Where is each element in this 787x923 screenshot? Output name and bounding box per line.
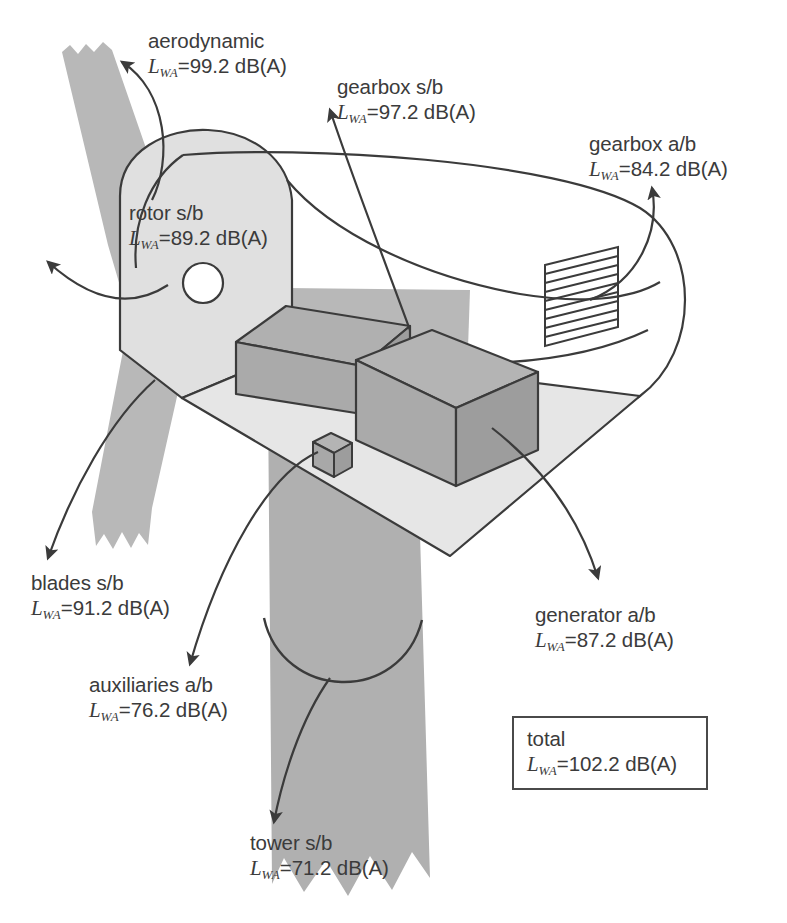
label-tower-sb-name: tower s/b [250,830,389,855]
grille-louver-2 [545,265,618,283]
symbol-L: L [527,752,539,776]
label-auxiliaries-ab-name: auxiliaries a/b [89,672,228,697]
label-aerodynamic: aerodynamic LWA=99.2 dB(A) [148,28,287,85]
rotor-hub-circle [183,263,223,303]
symbol-subscript-WA: WA [160,65,178,80]
label-tower-sb-number: =71.2 dB(A) [280,856,389,879]
label-tower-sb: tower s/b LWA=71.2 dB(A) [250,830,389,887]
grille-louver-3 [545,274,618,292]
label-blades-sb: blades s/b LWA=91.2 dB(A) [31,570,170,627]
symbol-L: L [89,698,101,722]
label-blades-sb-name: blades s/b [31,570,170,595]
grille-frame [545,247,618,346]
label-auxiliaries-ab: auxiliaries a/b LWA=76.2 dB(A) [89,672,228,729]
symbol-L: L [589,157,601,181]
grille-louver-7 [545,310,618,328]
label-total-number: =102.2 dB(A) [557,752,677,775]
label-generator-ab-number: =87.2 dB(A) [565,628,674,651]
label-gearbox-ab: gearbox a/b LWA=84.2 dB(A) [589,131,728,188]
label-rotor-sb-name: rotor s/b [129,200,268,225]
label-rotor-sb: rotor s/b LWA=89.2 dB(A) [129,200,268,257]
symbol-subscript-WA: WA [43,607,61,622]
label-gearbox-sb-number: =97.2 dB(A) [367,100,476,123]
label-tower-sb-value: LWA=71.2 dB(A) [250,855,389,887]
symbol-L: L [535,628,547,652]
symbol-subscript-WA: WA [101,709,119,724]
total-summary-box: total LWA=102.2 dB(A) [512,716,708,790]
label-blades-sb-value: LWA=91.2 dB(A) [31,595,170,627]
symbol-subscript-WA: WA [349,111,367,126]
label-gearbox-sb: gearbox s/b LWA=97.2 dB(A) [337,74,476,131]
symbol-L: L [129,226,141,250]
symbol-subscript-WA: WA [539,763,557,778]
grille-louver-8 [545,319,618,337]
label-gearbox-sb-value: LWA=97.2 dB(A) [337,99,476,131]
label-aerodynamic-number: =99.2 dB(A) [178,54,287,77]
grille-louver-6 [545,301,618,319]
label-generator-ab: generator a/b LWA=87.2 dB(A) [535,602,674,659]
label-auxiliaries-ab-value: LWA=76.2 dB(A) [89,697,228,729]
symbol-subscript-WA: WA [262,867,280,882]
label-generator-ab-name: generator a/b [535,602,674,627]
wind-turbine-noise-diagram: aerodynamic LWA=99.2 dB(A) gearbox s/b L… [0,0,787,923]
label-rotor-sb-number: =89.2 dB(A) [159,226,268,249]
label-aerodynamic-value: LWA=99.2 dB(A) [148,53,287,85]
symbol-subscript-WA: WA [141,237,159,252]
label-total-name: total [527,726,706,751]
arrow-gearbox-ab [590,188,654,300]
label-aerodynamic-name: aerodynamic [148,28,287,53]
label-generator-ab-value: LWA=87.2 dB(A) [535,627,674,659]
label-gearbox-ab-number: =84.2 dB(A) [619,157,728,180]
grille-louver-1 [545,256,618,274]
symbol-L: L [31,596,43,620]
nacelle-shell-top-rear [287,180,660,299]
label-gearbox-sb-name: gearbox s/b [337,74,476,99]
label-blades-sb-number: =91.2 dB(A) [61,596,170,619]
label-gearbox-ab-name: gearbox a/b [589,131,728,156]
symbol-L: L [337,100,349,124]
symbol-subscript-WA: WA [601,168,619,183]
label-rotor-sb-value: LWA=89.2 dB(A) [129,225,268,257]
label-auxiliaries-ab-number: =76.2 dB(A) [119,698,228,721]
label-total: total LWA=102.2 dB(A) [514,718,706,783]
symbol-L: L [250,856,262,880]
label-gearbox-ab-value: LWA=84.2 dB(A) [589,156,728,188]
label-total-value: LWA=102.2 dB(A) [527,751,706,783]
symbol-L: L [148,54,160,78]
grille-louver-5 [545,292,618,310]
symbol-subscript-WA: WA [547,639,565,654]
ventilation-grille-icon [545,247,618,346]
